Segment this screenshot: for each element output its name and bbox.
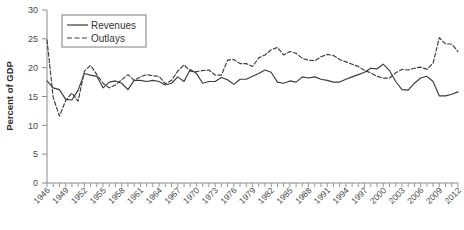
data-series-group	[47, 38, 458, 116]
x-tick-label: 2012	[442, 185, 463, 206]
y-tick-label: 5	[33, 149, 38, 159]
x-tick-group: 1994	[330, 185, 351, 206]
chart-legend: Revenues Outlays	[62, 15, 146, 47]
x-tick-group: 2012	[442, 185, 463, 206]
y-tick-label: 15	[28, 92, 38, 102]
x-axis-minor-ticks	[47, 183, 458, 187]
x-tick-group: 1970	[181, 185, 202, 206]
x-tick-label: 2009	[424, 185, 445, 206]
x-tick-group: 1973	[200, 185, 221, 206]
x-tick-label: 1976	[218, 185, 239, 206]
chart-container: Percent of GDP 051015202530 194619491952…	[0, 0, 464, 230]
x-tick-group: 1985	[274, 185, 295, 206]
x-tick-group: 1976	[218, 185, 239, 206]
x-tick-label: 2006	[405, 185, 426, 206]
x-tick-label: 1991	[312, 185, 333, 206]
line-chart: Percent of GDP 051015202530 194619491952…	[0, 0, 464, 230]
x-tick-group: 1952	[69, 185, 90, 206]
x-tick-label: 1988	[293, 185, 314, 206]
y-axis-ticks: 051015202530	[28, 5, 47, 188]
x-tick-label: 1967	[162, 185, 183, 206]
x-axis-ticks: 1946194919521955195819611964196719701973…	[31, 185, 463, 206]
series-line-revenues	[47, 64, 458, 100]
y-tick-label: 25	[28, 34, 38, 44]
x-tick-label: 1949	[50, 185, 71, 206]
x-tick-label: 1958	[106, 185, 127, 206]
x-tick-label: 1946	[31, 185, 52, 206]
x-tick-group: 2003	[386, 185, 407, 206]
x-tick-label: 1970	[181, 185, 202, 206]
x-tick-group: 1988	[293, 185, 314, 206]
x-tick-group: 1958	[106, 185, 127, 206]
x-tick-group: 1979	[237, 185, 258, 206]
x-tick-label: 1985	[274, 185, 295, 206]
x-tick-group: 1982	[256, 185, 277, 206]
x-tick-label: 2003	[386, 185, 407, 206]
x-tick-label: 1973	[200, 185, 221, 206]
x-tick-label: 1979	[237, 185, 258, 206]
x-tick-label: 1994	[330, 185, 351, 206]
x-tick-label: 2000	[368, 185, 389, 206]
y-tick-label: 10	[28, 121, 38, 131]
y-tick-label: 0	[33, 178, 38, 188]
x-tick-group: 1949	[50, 185, 71, 206]
x-tick-label: 1997	[349, 185, 370, 206]
x-tick-group: 2006	[405, 185, 426, 206]
x-tick-label: 1952	[69, 185, 90, 206]
x-tick-label: 1955	[88, 185, 109, 206]
legend-label-outlays: Outlays	[91, 33, 125, 44]
x-tick-group: 1997	[349, 185, 370, 206]
y-tick-label: 30	[28, 5, 38, 15]
y-tick-label: 20	[28, 63, 38, 73]
x-tick-group: 1946	[31, 185, 52, 206]
x-tick-group: 2000	[368, 185, 389, 206]
x-tick-label: 1964	[144, 185, 165, 206]
x-tick-group: 1955	[88, 185, 109, 206]
y-axis-title: Percent of GDP	[4, 60, 15, 130]
x-tick-group: 1967	[162, 185, 183, 206]
x-tick-group: 1961	[125, 185, 146, 206]
x-tick-group: 1964	[144, 185, 165, 206]
x-tick-group: 2009	[424, 185, 445, 206]
x-tick-label: 1961	[125, 185, 146, 206]
x-tick-group: 1991	[312, 185, 333, 206]
x-tick-label: 1982	[256, 185, 277, 206]
legend-label-revenues: Revenues	[91, 20, 136, 31]
